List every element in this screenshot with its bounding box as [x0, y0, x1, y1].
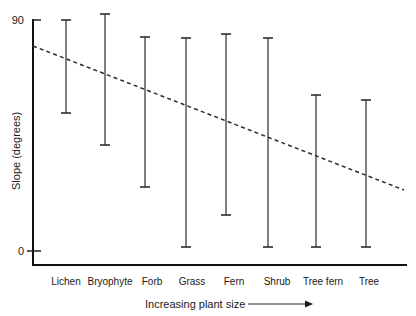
- x-category-label-lichen: Lichen: [51, 276, 80, 287]
- chart-container: 90 0 Slope (degrees): [0, 0, 416, 316]
- slope-vs-plant-size-chart: 90 0 Slope (degrees): [0, 0, 416, 316]
- y-tick-label-90: 90: [12, 14, 24, 26]
- x-category-label-forb: Forb: [142, 276, 163, 287]
- x-category-label-shrub: Shrub: [264, 276, 291, 287]
- x-axis-title: Increasing plant size: [145, 298, 245, 310]
- y-axis-title: Slope (degrees): [10, 112, 22, 190]
- x-category-label-tree: Tree: [359, 276, 380, 287]
- x-category-label-tree-fern: Tree fern: [303, 276, 343, 287]
- x-category-label-bryophyte: Bryophyte: [87, 276, 132, 287]
- y-tick-label-0: 0: [18, 245, 24, 257]
- chart-background: [0, 0, 416, 316]
- x-category-label-grass: Grass: [179, 276, 206, 287]
- x-category-label-fern: Fern: [224, 276, 245, 287]
